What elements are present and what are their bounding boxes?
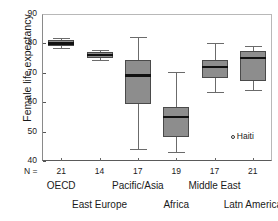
- whisker-lower: [138, 104, 139, 149]
- category-label-middle-east: Middle East: [165, 180, 265, 191]
- whisker-upper: [176, 72, 177, 106]
- n-count-east-europe: 14: [88, 166, 112, 176]
- y-tick-label-50: 50: [15, 127, 37, 136]
- cap-lower: [168, 152, 185, 153]
- whisker-upper: [215, 43, 216, 60]
- cap-upper: [130, 37, 147, 38]
- whisker-lower: [176, 137, 177, 152]
- y-tick-label-90: 90: [15, 9, 37, 18]
- x-tick-mark: [253, 158, 254, 161]
- y-tick-label-60: 60: [15, 97, 37, 106]
- median-line: [48, 42, 74, 45]
- cap-upper: [168, 72, 185, 73]
- whisker-lower: [253, 81, 254, 90]
- x-tick-mark: [176, 158, 177, 161]
- x-tick-mark: [138, 158, 139, 161]
- x-tick-mark: [61, 158, 62, 161]
- median-line: [125, 74, 151, 77]
- n-prefix-label: N =: [24, 166, 37, 176]
- n-count-latn-america: 21: [241, 166, 265, 176]
- median-line: [202, 66, 228, 69]
- cap-lower: [53, 48, 70, 49]
- cap-upper: [92, 50, 109, 51]
- cap-lower: [207, 92, 224, 93]
- box-plot-figure: Female life expectancy 908070605040 Hait…: [0, 0, 278, 221]
- box-middle-east: [202, 60, 228, 78]
- whisker-lower: [215, 78, 216, 92]
- n-count-africa: 19: [164, 166, 188, 176]
- cap-lower: [130, 149, 147, 150]
- outlier-label-haiti: Haiti: [237, 131, 254, 141]
- cap-upper: [53, 38, 70, 39]
- y-tick-label-40: 40: [15, 156, 37, 165]
- box-africa: [163, 107, 189, 137]
- n-count-pacific-asia: 17: [126, 166, 150, 176]
- median-line: [87, 54, 113, 57]
- median-line: [163, 116, 189, 119]
- y-tick-mark: [43, 161, 46, 162]
- x-tick-mark: [215, 158, 216, 161]
- box-pacific-asia: [125, 60, 151, 104]
- n-count-middle-east: 17: [203, 166, 227, 176]
- cap-upper: [207, 43, 224, 44]
- cap-lower: [92, 60, 109, 61]
- x-tick-mark: [100, 158, 101, 161]
- n-count-oecd: 21: [49, 166, 73, 176]
- median-line: [240, 57, 266, 60]
- cap-upper: [245, 46, 262, 47]
- cap-lower: [245, 90, 262, 91]
- whisker-upper: [138, 37, 139, 61]
- y-tick-label-80: 80: [15, 38, 37, 47]
- y-tick-label-70: 70: [15, 68, 37, 77]
- category-label-latn-america: Latn America: [203, 199, 278, 210]
